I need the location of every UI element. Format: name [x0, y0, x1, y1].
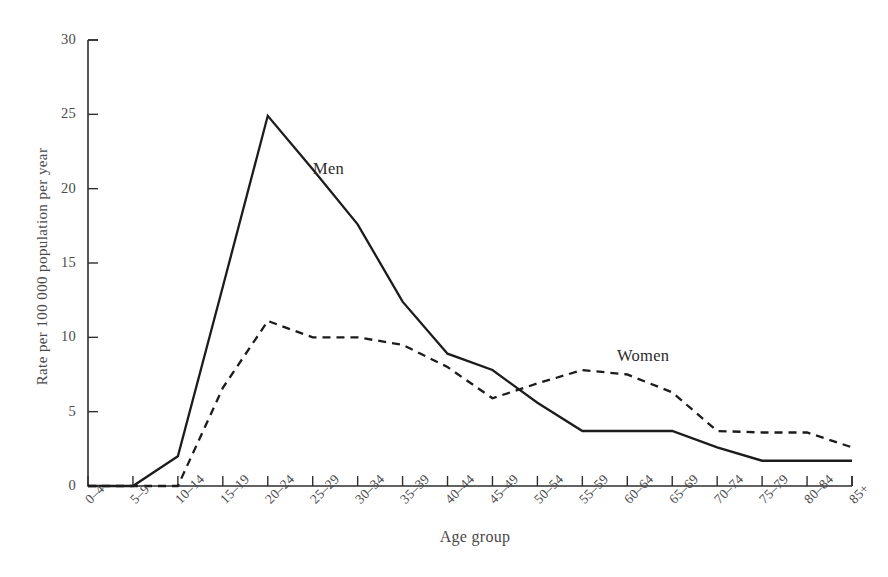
x-axis-title: Age group	[395, 528, 555, 546]
chart-series-group	[88, 116, 852, 486]
series-annotation-women: Women	[617, 346, 669, 366]
y-tick-label: 30	[36, 31, 76, 48]
y-tick-label: 0	[36, 477, 76, 494]
series-annotation-men: Men	[313, 159, 344, 179]
y-axis-tick-marks	[88, 40, 98, 486]
series-line-men	[88, 116, 852, 486]
series-line-women	[88, 321, 852, 486]
y-axis-title: Rate per 100 000 population per year	[34, 57, 51, 477]
axis-lines	[88, 40, 852, 486]
chart-figure: 051015202530 0–45–910–1415–1920–2425–293…	[0, 0, 888, 577]
chart-axes	[88, 40, 852, 486]
